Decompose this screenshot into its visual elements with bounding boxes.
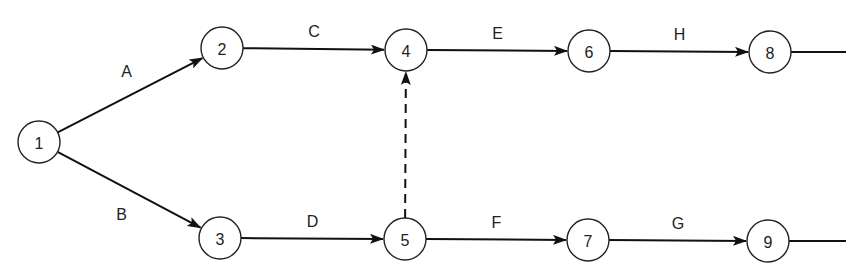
event-node-4: 4 (385, 29, 427, 71)
node-label: 7 (584, 233, 593, 250)
event-node-9: 9 (747, 220, 789, 262)
network-diagram: ABCDEFGH 123456789 (0, 0, 853, 278)
node-label: 2 (218, 41, 227, 58)
edge-6-8-H: H (610, 26, 748, 52)
event-node-7: 7 (567, 219, 609, 261)
edge-5-7-F: F (426, 214, 566, 240)
activity-label: B (116, 206, 127, 223)
edge-7-9-G: G (609, 215, 746, 241)
edge-1-2-A: A (58, 58, 203, 132)
node-label: 4 (402, 43, 411, 60)
edge-5-4-dummy (405, 72, 406, 218)
event-node-3: 3 (199, 217, 241, 259)
event-node-5: 5 (384, 218, 426, 260)
edge-3-5-D: D (241, 213, 383, 239)
activity-label: H (674, 26, 686, 43)
event-node-2: 2 (201, 27, 243, 69)
activity-label: F (492, 214, 502, 231)
activity-label: G (672, 215, 684, 232)
activity-label: E (492, 25, 503, 42)
event-node-1: 1 (18, 121, 60, 163)
activity-label: D (307, 213, 319, 230)
event-node-6: 6 (568, 30, 610, 72)
event-node-8: 8 (749, 31, 791, 73)
node-label: 9 (764, 234, 773, 251)
node-label: 6 (585, 44, 594, 61)
edge-4-6-E: E (427, 25, 567, 51)
edge-2-4-C: C (243, 23, 384, 50)
edge-1-3-B: B (58, 152, 201, 228)
activity-label: C (308, 23, 320, 40)
node-label: 3 (216, 231, 225, 248)
node-label: 8 (766, 45, 775, 62)
activity-label: A (121, 63, 132, 80)
node-label: 1 (35, 135, 44, 152)
node-label: 5 (401, 232, 410, 249)
